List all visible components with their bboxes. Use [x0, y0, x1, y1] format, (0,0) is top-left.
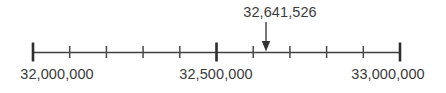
- annotation-arrow-group: [262, 22, 270, 52]
- axis-tick-label-0: 32,000,000: [20, 66, 94, 82]
- axis-tick-label-1: 32,500,000: [179, 66, 253, 82]
- axis-tick-label-2: 33,000,000: [351, 66, 425, 82]
- number-line-figure: 32,641,526 32,000,00032,500,00033,000,00…: [0, 0, 446, 93]
- down-arrow-icon: [262, 41, 270, 52]
- pointer-value-label: 32,641,526: [243, 4, 317, 20]
